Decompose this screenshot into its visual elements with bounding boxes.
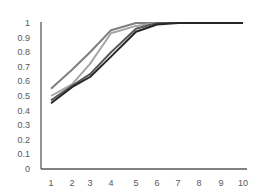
x-tick-label: 10 xyxy=(238,178,248,188)
y-axis-tick-labels: 00.10.20.30.40.50.60.70.80.91 xyxy=(17,18,30,174)
y-tick-label: 0.8 xyxy=(17,47,30,57)
x-tick-label: 1 xyxy=(48,178,53,188)
x-tick-label: 6 xyxy=(154,178,159,188)
x-tick-label: 8 xyxy=(196,178,201,188)
x-tick-label: 2 xyxy=(69,178,74,188)
y-tick-label: 0.5 xyxy=(17,91,30,101)
y-tick-label: 0.6 xyxy=(17,76,30,86)
x-tick-label: 5 xyxy=(133,178,138,188)
series-line-1 xyxy=(51,23,243,89)
y-tick-label: 0.2 xyxy=(17,135,30,145)
x-tick-label: 4 xyxy=(108,178,113,188)
x-axis-tick-labels: 12345678910 xyxy=(48,178,248,188)
y-tick-label: 0.1 xyxy=(17,149,30,159)
x-tick-label: 3 xyxy=(87,178,92,188)
x-tick-label: 9 xyxy=(218,178,223,188)
series-line-2 xyxy=(51,23,243,96)
y-tick-label: 0.4 xyxy=(17,106,30,116)
x-tick-label: 7 xyxy=(175,178,180,188)
y-tick-label: 0.3 xyxy=(17,120,30,130)
series-lines xyxy=(51,23,243,103)
y-tick-label: 0 xyxy=(25,164,30,174)
y-tick-label: 1 xyxy=(25,18,30,28)
y-tick-label: 0.7 xyxy=(17,62,30,72)
y-tick-label: 0.9 xyxy=(17,33,30,43)
line-chart: 00.10.20.30.40.50.60.70.80.91 1234567891… xyxy=(0,0,270,196)
